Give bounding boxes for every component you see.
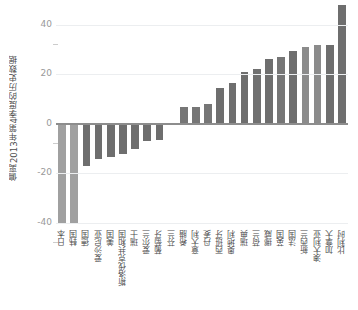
- x-tick-label: 希腊: [180, 230, 189, 246]
- bar[interactable]: [131, 124, 139, 149]
- x-tick-label: 爱尔兰: [143, 230, 152, 254]
- x-tick-label: 荷兰: [253, 230, 262, 246]
- x-tick-label: 奥地利: [228, 230, 237, 254]
- bar[interactable]: [156, 124, 164, 140]
- x-tick-label: 葡萄牙: [155, 230, 164, 254]
- bar[interactable]: [143, 124, 151, 141]
- bar[interactable]: [289, 51, 297, 124]
- y-axis-ticks: 40200-20-40: [20, 0, 52, 228]
- bar[interactable]: [216, 88, 224, 124]
- bar[interactable]: [302, 47, 310, 124]
- x-tick-label: 瑞典: [241, 230, 250, 246]
- gridline: [56, 223, 348, 224]
- y-tick-label: 0: [46, 118, 52, 128]
- x-tick-label: 美国: [107, 230, 116, 246]
- bar[interactable]: [204, 104, 212, 124]
- bar[interactable]: [180, 107, 188, 124]
- bar[interactable]: [83, 124, 91, 166]
- gridline: [56, 25, 348, 26]
- x-tick-label: 法国: [289, 230, 298, 246]
- x-axis-labels: 日本韩国德国爱沙尼亚美国斯洛伐克共和国瑞士爱尔兰葡萄牙芬兰希腊意大利丹麦西班牙奥…: [56, 230, 348, 310]
- bar[interactable]: [265, 59, 273, 123]
- bar[interactable]: [95, 124, 103, 159]
- bar[interactable]: [326, 45, 334, 124]
- x-tick-label: 斯洛伐克共和国: [119, 230, 128, 286]
- x-tick-label: 德国: [82, 230, 91, 246]
- x-tick-label: 丹麦: [204, 230, 213, 246]
- x-tick-label: 韩国: [70, 230, 79, 246]
- gridline: [56, 74, 348, 75]
- bar[interactable]: [192, 107, 200, 124]
- bar-chart: 偏离2013年第4季度的历史数据 40200-20-40 日本韩国德国爱沙尼亚美…: [0, 0, 358, 310]
- x-tick-label: 意大利: [192, 230, 201, 254]
- bar[interactable]: [277, 57, 285, 124]
- bar[interactable]: [314, 45, 322, 124]
- y-tick-label: 40: [41, 19, 52, 29]
- x-tick-label: 新西兰: [301, 230, 310, 254]
- x-tick-label: 爱沙尼亚: [95, 230, 104, 262]
- zero-line: [56, 123, 348, 125]
- x-tick-label: 日本: [58, 230, 67, 246]
- bar[interactable]: [338, 5, 346, 124]
- y-tick-label: -40: [37, 217, 52, 227]
- bar[interactable]: [253, 69, 261, 124]
- x-tick-label: 芬兰: [168, 230, 177, 246]
- bar[interactable]: [229, 83, 237, 124]
- bar[interactable]: [241, 72, 249, 124]
- x-tick-label: 瑞士: [131, 230, 140, 246]
- bar[interactable]: [119, 124, 127, 154]
- x-tick-label: 澳大利亚: [314, 230, 323, 262]
- x-tick-label: 比利时: [338, 230, 347, 254]
- y-tick-label: 20: [41, 68, 52, 78]
- x-tick-label: 英国: [277, 230, 286, 246]
- bars-layer: [56, 0, 348, 228]
- plot-area: [56, 0, 348, 228]
- bar[interactable]: [107, 124, 115, 157]
- x-tick-label: 加拿大: [326, 230, 335, 254]
- gridline: [56, 173, 348, 174]
- x-tick-label: 挪威: [265, 230, 274, 246]
- x-tick-label: 西班牙: [216, 230, 225, 254]
- y-tick-label: -20: [37, 167, 52, 177]
